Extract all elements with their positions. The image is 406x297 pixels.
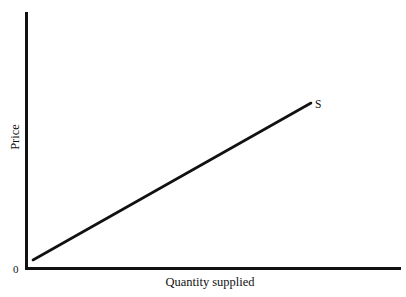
origin-label: 0 (13, 264, 19, 275)
y-axis-label: Price (9, 124, 22, 150)
x-axis-label: Quantity supplied (165, 276, 254, 289)
y-axis (25, 12, 28, 270)
supply-curve-label: S (315, 99, 321, 111)
x-axis (25, 267, 401, 270)
supply-curve-line (33, 103, 311, 260)
supply-curve-figure: 0 Price Quantity supplied S (0, 0, 406, 297)
plot-area (0, 0, 406, 297)
